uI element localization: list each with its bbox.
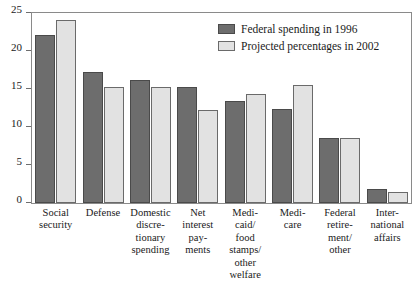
bar	[225, 101, 245, 203]
y-axis-tick-label: 0	[17, 194, 23, 205]
bar	[198, 110, 218, 203]
y-axis-tick-mark	[26, 164, 31, 165]
y-axis-tick-label: 10	[11, 118, 22, 129]
legend-label: Projected percentages in 2002	[241, 40, 379, 52]
y-axis-tick-mark	[26, 12, 31, 13]
bar	[151, 87, 171, 203]
legend-swatch	[218, 41, 235, 51]
bar	[246, 94, 266, 203]
y-axis-tick-label: 15	[11, 80, 22, 91]
y-axis-tick-mark	[26, 88, 31, 89]
legend-swatch	[218, 24, 235, 34]
legend-item: Federal spending in 1996	[218, 22, 408, 35]
x-axis-label: Federal retire- ment/ other	[316, 207, 363, 257]
bar	[340, 138, 360, 203]
x-axis-label: Domestic discre- tionary spending	[127, 207, 174, 257]
bar	[272, 109, 292, 203]
y-axis-tick-mark	[26, 126, 31, 127]
y-axis-tick-mark	[26, 202, 31, 203]
bar	[319, 138, 339, 203]
x-axis-label: Net interest pay- ments	[174, 207, 221, 257]
x-axis-label: Medi- caid/ food stamps/ other welfare	[222, 207, 269, 281]
bar	[56, 20, 76, 203]
y-axis-tick-label: 25	[11, 4, 22, 15]
bar	[388, 192, 408, 203]
x-axis-label: Medi- care	[269, 207, 316, 232]
bar	[367, 189, 387, 203]
bar	[104, 87, 124, 203]
x-axis-label: Inter- national affairs	[364, 207, 411, 244]
legend-item: Projected percentages in 2002	[218, 39, 408, 52]
bar	[177, 87, 197, 203]
x-axis-label: Defense	[79, 207, 126, 219]
bar	[83, 72, 103, 203]
x-axis-label: Social security	[32, 207, 79, 232]
y-axis-tick-mark	[26, 50, 31, 51]
y-axis: 0510152025	[0, 12, 31, 204]
bar-group	[174, 13, 221, 203]
bar-group	[79, 13, 126, 203]
bar-chart: 0510152025 Social securityDefenseDomesti…	[0, 0, 419, 284]
x-axis-labels: Social securityDefenseDomestic discre- t…	[32, 207, 411, 284]
y-axis-tick-label: 20	[11, 42, 22, 53]
bar	[293, 85, 313, 203]
bar	[130, 80, 150, 203]
bar	[35, 35, 55, 203]
legend-label: Federal spending in 1996	[241, 23, 358, 35]
y-axis-tick-label: 5	[17, 156, 23, 167]
bar-group	[127, 13, 174, 203]
bar-group	[32, 13, 79, 203]
chart-legend: Federal spending in 1996Projected percen…	[218, 22, 408, 56]
